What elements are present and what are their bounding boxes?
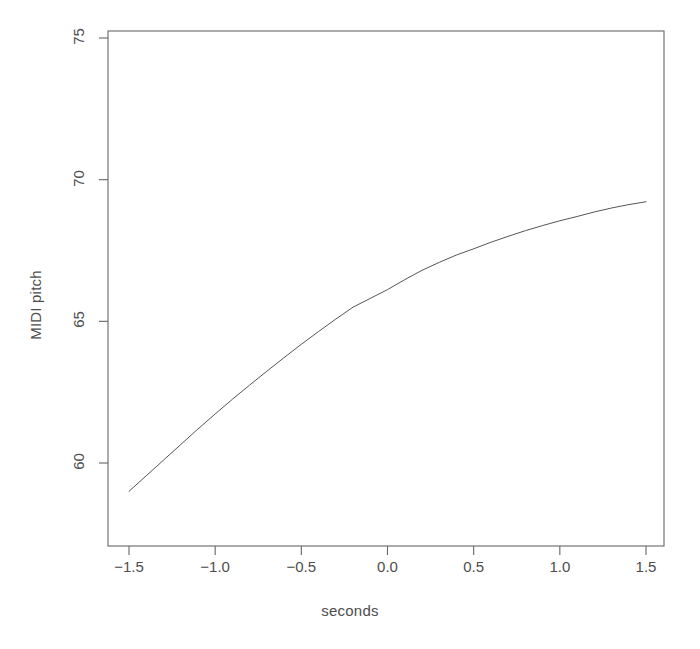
x-tick-label: 1.0 [549,558,570,575]
x-tick-label: −1.0 [200,558,230,575]
x-tick-label: −0.5 [287,558,317,575]
y-tick-label: 70 [70,170,87,187]
y-tick-label: 65 [70,311,87,328]
plot-canvas [0,0,700,649]
x-axis-title-text: seconds [321,602,378,619]
x-tick-label: 1.5 [636,558,657,575]
chart-figure: −1.5−1.0−0.50.00.51.01.5 60657075 second… [0,0,700,649]
y-axis-title-text: MIDI pitch [27,270,44,340]
x-tick-label: −1.5 [114,558,144,575]
plot-background [0,0,700,649]
x-tick-label: 0.0 [377,558,398,575]
x-axis-title: seconds [0,602,700,619]
y-tick-label: 60 [70,453,87,470]
y-tick-label: 75 [70,28,87,45]
x-tick-label: 0.5 [463,558,484,575]
